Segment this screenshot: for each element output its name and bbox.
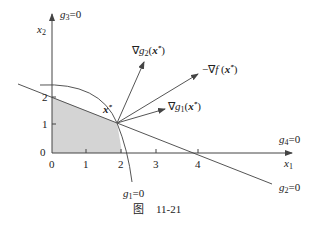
x-tick-1: 1 — [83, 158, 89, 170]
y-tick-2: 2 — [42, 91, 48, 103]
figure-caption-prefix: 图 — [133, 203, 144, 215]
neg-grad-f-label: −∇f (x*) — [202, 63, 238, 76]
x-tick-0: 0 — [49, 158, 55, 170]
kkt-diagram: 0 1 2 3 4 0 1 2 x1 x2 g3=0 g4=0 g2=0 g1=… — [0, 0, 316, 229]
optimal-point-label: x* — [102, 103, 113, 115]
constraint-g2-label: g2=0 — [279, 181, 301, 195]
x-tick-2: 2 — [118, 158, 124, 170]
constraint-g3-label: g3=0 — [60, 8, 82, 22]
x-tick-3: 3 — [153, 158, 159, 170]
y-tick-0: 0 — [40, 146, 46, 158]
neg-grad-f-vector — [117, 74, 198, 123]
grad-g2-label: ∇g2(x*) — [131, 44, 165, 58]
figure-caption-number: 11-21 — [156, 203, 181, 215]
grad-g2-vector — [117, 62, 144, 123]
grad-g1-label: ∇g1(x*) — [167, 100, 201, 114]
grad-g1-vector — [117, 109, 165, 123]
y-tick-1: 1 — [42, 118, 48, 130]
constraint-g4-label: g4=0 — [279, 133, 301, 147]
constraint-g1-label: g1=0 — [123, 187, 145, 201]
x-tick-4: 4 — [195, 158, 201, 170]
x1-axis-label: x1 — [283, 157, 293, 171]
x2-axis-label: x2 — [36, 23, 46, 37]
